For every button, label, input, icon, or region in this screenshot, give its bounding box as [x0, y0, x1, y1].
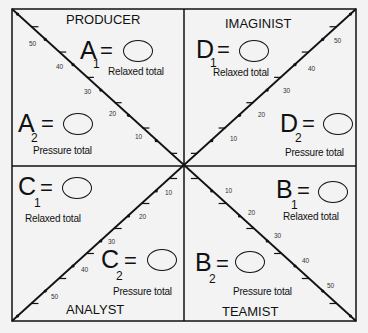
teamist-title: TEAMIST	[222, 305, 278, 318]
equals-sign: =	[124, 250, 137, 272]
equals-sign: =	[217, 39, 230, 61]
teamist-relaxed-input[interactable]	[318, 181, 348, 203]
analyst-pressure-input[interactable]	[147, 249, 177, 271]
scale-label: 50	[334, 38, 341, 45]
imaginist-relaxed-input[interactable]	[239, 40, 269, 62]
producer-pressure-sub: 2	[31, 132, 38, 144]
producer-pressure-input[interactable]	[63, 113, 93, 135]
producer-relaxed-sub: 1	[93, 58, 100, 70]
scale-label: 10	[230, 136, 237, 143]
analyst-pressure-label: Pressure total	[113, 287, 172, 297]
scale-label: 40	[308, 66, 315, 73]
analyst-relaxed-label: Relaxed total	[25, 214, 81, 224]
scale-label: 20	[258, 112, 265, 119]
imaginist-relaxed-label: Relaxed total	[213, 68, 269, 78]
imaginist-pressure-input[interactable]	[323, 113, 353, 135]
equals-sign: =	[100, 40, 113, 62]
teamist-pressure-sub: 2	[209, 273, 216, 285]
scale-label: 20	[248, 210, 255, 217]
scale-label: 30	[84, 89, 91, 96]
analyst-title: ANALYST	[66, 303, 124, 316]
scale-label: 30	[283, 88, 290, 95]
imaginist-title: IMAGINIST	[225, 17, 291, 30]
producer-relaxed-input[interactable]	[123, 40, 153, 62]
teamist-relaxed-label: Relaxed total	[283, 212, 339, 222]
analyst-pressure-sub: 2	[116, 270, 123, 282]
scale-label: 20	[139, 214, 146, 221]
scale-label: 10	[165, 190, 172, 197]
equals-sign: =	[302, 113, 315, 135]
scale-label: 50	[29, 41, 36, 48]
scale-label: 40	[81, 267, 88, 274]
scale-label: 10	[135, 134, 142, 141]
producer-relaxed-label: Relaxed total	[108, 67, 164, 77]
scale-label: 30	[274, 233, 281, 240]
equals-sign: =	[41, 113, 54, 135]
producer-pressure-label: Pressure total	[33, 146, 92, 156]
analyst-relaxed-input[interactable]	[62, 177, 92, 199]
scale-label: 40	[302, 258, 309, 265]
producer-title: PRODUCER	[66, 13, 140, 26]
diagram-lines	[0, 0, 368, 333]
scale-label: 50	[51, 294, 58, 301]
scale-label: 30	[108, 239, 115, 246]
scale-label: 40	[56, 64, 63, 71]
equals-sign: =	[40, 177, 53, 199]
scale-label: 10	[225, 188, 232, 195]
teamist-pressure-input[interactable]	[235, 251, 265, 273]
equals-sign: =	[216, 253, 229, 275]
imaginist-pressure-label: Pressure total	[285, 148, 344, 158]
teamist-pressure-label: Pressure total	[233, 287, 292, 297]
scale-label: 20	[109, 111, 116, 118]
equals-sign: =	[297, 180, 310, 202]
scale-label: 50	[327, 283, 334, 290]
imaginist-pressure-sub: 2	[295, 132, 302, 144]
